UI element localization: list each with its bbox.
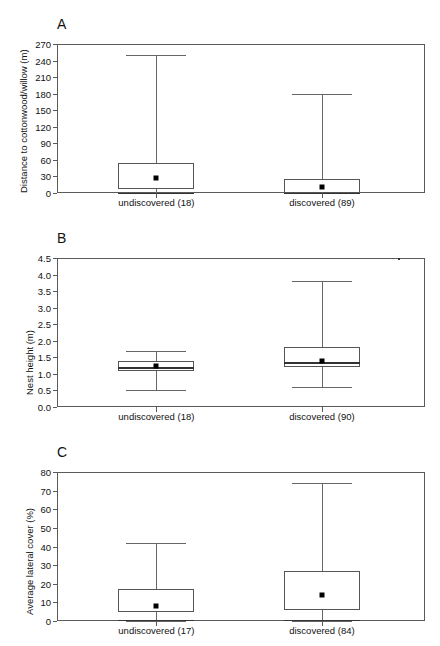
y-tick-label: 50 <box>15 522 51 533</box>
y-tick-label: 70 <box>15 485 51 496</box>
y-tick-mark <box>53 565 57 566</box>
box-c-1 <box>284 571 360 610</box>
whisker-upper <box>156 543 157 590</box>
y-tick-label: 30 <box>15 560 51 571</box>
boxplot-figure: ADistance to cottonwood/willow (m)030609… <box>0 0 440 646</box>
mean-marker <box>319 592 324 597</box>
y-tick-mark <box>53 584 57 585</box>
plot-frame-c <box>57 472 425 621</box>
y-tick-mark <box>53 528 57 529</box>
mean-marker <box>154 604 159 609</box>
panel-c: CAverage lateral cover (%)01020304050607… <box>0 0 440 646</box>
y-tick-mark <box>53 547 57 548</box>
panel-letter-c: C <box>57 444 68 460</box>
whisker-cap-upper <box>292 483 352 484</box>
y-tick-label: 0 <box>15 616 51 627</box>
y-tick-label: 80 <box>15 467 51 478</box>
y-tick-mark <box>53 621 57 622</box>
y-tick-label: 40 <box>15 541 51 552</box>
y-tick-mark <box>53 509 57 510</box>
y-tick-label: 20 <box>15 578 51 589</box>
y-tick-mark <box>53 491 57 492</box>
scan-artifact-speck <box>398 258 400 260</box>
y-tick-mark <box>53 602 57 603</box>
y-tick-label: 60 <box>15 504 51 515</box>
y-tick-mark <box>53 472 57 473</box>
x-tick-label: undiscovered (17) <box>118 625 194 636</box>
y-tick-label: 10 <box>15 597 51 608</box>
whisker-cap-upper <box>126 543 186 544</box>
x-tick-label: discovered (84) <box>289 625 354 636</box>
whisker-upper <box>322 483 323 571</box>
